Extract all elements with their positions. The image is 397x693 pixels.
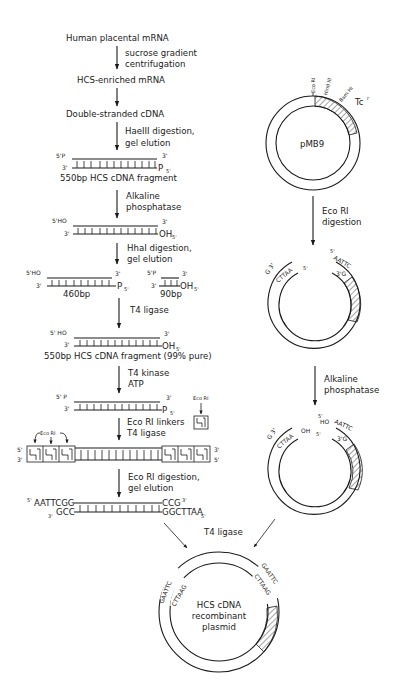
- arrow-label: Alkaline: [126, 191, 160, 201]
- svg-text:AATTC: AATTC: [334, 418, 354, 432]
- arrow-label: gel elution: [125, 138, 170, 148]
- svg-text:P: P: [117, 281, 122, 291]
- arrow-label: digestion: [322, 217, 362, 227]
- svg-text:550bp HCS cDNA fragment: 550bp HCS cDNA fragment: [60, 173, 177, 183]
- arrow-label: gel elution: [127, 254, 172, 264]
- step-hcs-enriched-mrna: HCS-enriched mRNA: [77, 75, 165, 85]
- svg-text:5' HO: 5' HO: [50, 329, 67, 336]
- svg-text:3': 3': [166, 394, 172, 401]
- plasmid-recombinant: GAATTC CTTAAG GAATTC CTTAAG HCS cDNA rec…: [157, 552, 279, 672]
- dna-fragment-550bp-pure: 5' HO 3' 3' OH 5' 550bp HCS cDNA fragmen…: [44, 329, 212, 361]
- svg-text:3': 3': [17, 456, 23, 463]
- arrow-label: Alkaline: [324, 374, 358, 384]
- plasmid-pmb9: pMB9 Tc r Eco RI Hind III Bam HI: [266, 77, 370, 190]
- svg-text:3': 3': [214, 446, 220, 453]
- dna-fragment-sticky-ends: 5' AATTCGG CCG 3' 3' GCC GGCTTAA 5': [27, 497, 206, 519]
- svg-text:5': 5': [330, 248, 335, 254]
- arrow-label: Eco RI digestion,: [128, 472, 200, 482]
- dna-fragment-550bp-dephosphorylated: 5'HO 3' 3' OH 5': [52, 217, 177, 240]
- svg-text:5' P: 5' P: [56, 393, 67, 400]
- svg-text:Eco RI: Eco RI: [40, 430, 56, 436]
- svg-text:90bp: 90bp: [160, 289, 182, 299]
- plasmid-linearized: G 3' CTTAA 5' 5' AATTC 3'G: [263, 248, 361, 348]
- svg-text:OH: OH: [180, 281, 193, 291]
- junction-left-outer: GAATTC: [157, 580, 172, 605]
- svg-text:CTTAA: CTTAA: [275, 431, 295, 449]
- svg-text:5': 5': [303, 265, 308, 271]
- svg-text:3': 3': [182, 497, 187, 503]
- arrow-converge-icon: [254, 519, 275, 547]
- svg-text:recombinant: recombinant: [192, 611, 247, 621]
- svg-text:5'P: 5'P: [56, 152, 65, 159]
- svg-text:G 3': G 3': [265, 426, 278, 440]
- svg-text:3': 3': [62, 164, 68, 171]
- arrow-label: ATP: [128, 379, 144, 389]
- arrow-label: centrifugation: [125, 59, 185, 69]
- arrow-label: phosphatase: [324, 385, 379, 395]
- svg-text:3': 3': [162, 218, 168, 225]
- dna-fragment-550bp-kinased: 5' P 3' 3' P 5': [56, 393, 175, 416]
- arrow-label: Eco RI linkers: [127, 417, 185, 427]
- svg-text:HO: HO: [320, 418, 330, 425]
- svg-text:HCS cDNA: HCS cDNA: [197, 600, 241, 610]
- svg-text:3': 3': [162, 152, 168, 159]
- arrow-label: HaeIII digestion,: [125, 126, 195, 136]
- svg-text:5'P: 5'P: [147, 269, 156, 276]
- svg-text:plasmid: plasmid: [202, 622, 236, 632]
- svg-text:pMB9: pMB9: [300, 139, 324, 149]
- arrow-converge-icon: [164, 523, 187, 548]
- arrow-label: T4 ligase: [126, 428, 166, 438]
- arrow-label: T4 ligase: [129, 305, 169, 315]
- dna-fragment-460bp: 5'HO 3' 3' P 5' 460bp: [26, 269, 129, 299]
- arrow-label: sucrose gradient: [125, 48, 198, 58]
- svg-text:GCC: GCC: [56, 507, 75, 517]
- arrow-label: gel elution: [128, 483, 173, 493]
- svg-text:5': 5': [214, 456, 220, 463]
- svg-text:550bp HCS cDNA fragment (99% p: 550bp HCS cDNA fragment (99% pure): [44, 351, 212, 361]
- svg-text:3'G: 3'G: [337, 435, 347, 442]
- svg-text:5'HO: 5'HO: [52, 217, 67, 224]
- svg-text:5': 5': [201, 513, 206, 519]
- plasmid-dephosphorylated: G 3' CTTAA OH 5' 5' HO AATTC 3'G: [265, 413, 362, 514]
- arrow-label: HhaI digestion,: [127, 243, 192, 253]
- tc-resistance-marker: Tc: [354, 97, 364, 107]
- svg-text:AATTC: AATTC: [333, 254, 353, 270]
- svg-text:5'HO: 5'HO: [26, 269, 41, 276]
- step-human-placental-mrna: Human placental mRNA: [66, 33, 169, 43]
- site-bam-hi: Bam HI: [338, 85, 354, 103]
- svg-text:3': 3': [64, 341, 70, 348]
- svg-text:5': 5': [170, 410, 175, 416]
- site-eco-ri: Eco RI: [310, 77, 316, 93]
- svg-text:5': 5': [124, 286, 129, 292]
- step-double-stranded-cdna: Double-stranded cDNA: [66, 109, 164, 119]
- svg-text:3': 3': [36, 282, 42, 289]
- svg-text:G 3': G 3': [263, 261, 276, 275]
- svg-text:Eco RI: Eco RI: [193, 395, 209, 401]
- svg-text:5': 5': [172, 234, 177, 240]
- svg-text:3': 3': [64, 405, 70, 412]
- svg-text:3': 3': [64, 230, 70, 237]
- svg-text:5': 5': [194, 286, 199, 292]
- svg-text:P: P: [162, 405, 167, 415]
- svg-text:3': 3': [164, 330, 170, 337]
- site-hind-iii: Hind III: [322, 77, 332, 95]
- eco-ri-linker-icon: Eco RI: [193, 395, 209, 429]
- svg-text:GGCTTAA: GGCTTAA: [162, 507, 203, 517]
- svg-text:460bp: 460bp: [63, 289, 90, 299]
- svg-text:OH: OH: [162, 341, 175, 351]
- arrow-label: T4 kinase: [127, 368, 169, 378]
- arrow-label: Eco RI: [322, 206, 349, 216]
- arrow-label: phosphatase: [126, 202, 181, 212]
- dna-fragment-90bp: 5'P 3' 3' OH 5' 90bp: [147, 269, 199, 299]
- svg-text:OH: OH: [159, 229, 172, 239]
- svg-text:5': 5': [316, 431, 321, 437]
- ligase-label: T4 ligase: [203, 527, 243, 537]
- svg-text:3': 3': [182, 270, 188, 277]
- svg-text:3': 3': [115, 270, 121, 277]
- svg-text:5': 5': [17, 446, 23, 453]
- svg-text:3': 3': [151, 282, 157, 289]
- dna-fragment-550bp: 5'P 3' 3' P 5' 550bp HCS cDNA fragment: [56, 152, 177, 183]
- svg-text:3'G: 3'G: [336, 270, 346, 277]
- cloning-diagram: Human placental mRNA sucrose gradient ce…: [0, 0, 397, 693]
- svg-text:OH: OH: [301, 427, 310, 434]
